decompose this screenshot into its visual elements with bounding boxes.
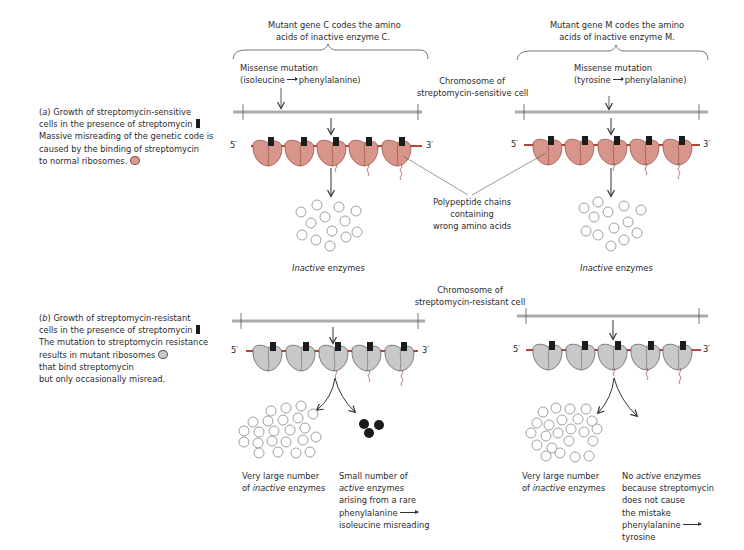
five-prime-b-right: 5′ (513, 343, 520, 355)
gene-c-label: Mutant gene C codes the amino acids of i… (268, 19, 398, 43)
chromosome-sensitive-left (233, 104, 422, 120)
missense-c-label: Missense mutation (isoleucinephenylalani… (240, 62, 361, 86)
chromosome-resistant-label: Chromosome of streptomycin-resistant cel… (408, 284, 532, 308)
arrow-icon (287, 79, 297, 80)
caption-a: (a) Growth of streptomycin-sensitive cel… (39, 106, 213, 167)
pointer-line-left (403, 156, 468, 195)
left-inactive-caption: Very large number of inactive enzymes (242, 470, 325, 494)
caption-b: (b) Growth of streptomycin-resistant cel… (39, 312, 208, 385)
arrow-icon (400, 512, 418, 513)
three-prime-a-right: 3′ (703, 138, 710, 150)
chromosome-resistant-left (232, 313, 425, 329)
five-prime-a-right: 5′ (511, 138, 518, 150)
branch-arrow-b-left-inactive (317, 378, 335, 410)
left-active-caption: Small number of active enzymes arising f… (339, 470, 429, 531)
three-prime-a-left: 3′ (426, 139, 433, 151)
mrna-polysome-a-right (524, 136, 700, 179)
five-prime-b-left: 5′ (231, 344, 238, 356)
missense-m-label: Missense mutation (tyrosinephenylalanine… (574, 62, 686, 86)
inactive-enzymes-label-c: Inactive enzymes (292, 262, 365, 274)
polypeptide-label: Polypeptide chains containing wrong amin… (420, 196, 524, 233)
right-inactive-caption: Very large number of inactive enzymes (522, 470, 605, 494)
three-prime-b-right: 3′ (703, 343, 710, 355)
arrow-icon (683, 524, 701, 525)
pointer-line-right (472, 153, 546, 195)
three-prime-b-left: 3′ (422, 344, 429, 356)
inactive-enzymes-b-left (239, 401, 321, 458)
streptomycin-icon (196, 119, 200, 128)
chromosome-sensitive-label: Chromosome of streptomycin-sensitive cel… (417, 75, 527, 99)
branch-arrow-b-left-active (335, 378, 355, 412)
branch-arrow-b-right-none (614, 378, 637, 416)
active-enzymes-b-left (359, 419, 384, 438)
inactive-enzymes-label-m: Inactive enzymes (580, 262, 653, 274)
branch-arrow-b-right-inactive (598, 378, 614, 413)
chromosome-sensitive-right (515, 104, 708, 120)
mutant-ribosome-icon (158, 350, 168, 359)
right-no-active-caption: No active enzymes because streptomycin d… (622, 470, 714, 543)
brace-gene-m (517, 45, 708, 60)
mrna-polysome-b-left (246, 342, 418, 386)
inactive-enzymes-a-right (579, 197, 646, 251)
gene-m-label: Mutant gene M codes the amino acids of i… (548, 19, 686, 43)
brace-gene-c (233, 44, 428, 59)
arrow-icon (613, 79, 623, 80)
streptomycin-icon (196, 325, 200, 334)
inactive-enzymes-b-right (526, 403, 602, 462)
normal-ribosome-icon (130, 156, 140, 165)
five-prime-a-left: 5′ (230, 139, 237, 151)
mrna-polysome-b-right (526, 341, 701, 384)
mrna-polysome-a-left (251, 137, 422, 180)
inactive-enzymes-a-left (296, 200, 362, 251)
